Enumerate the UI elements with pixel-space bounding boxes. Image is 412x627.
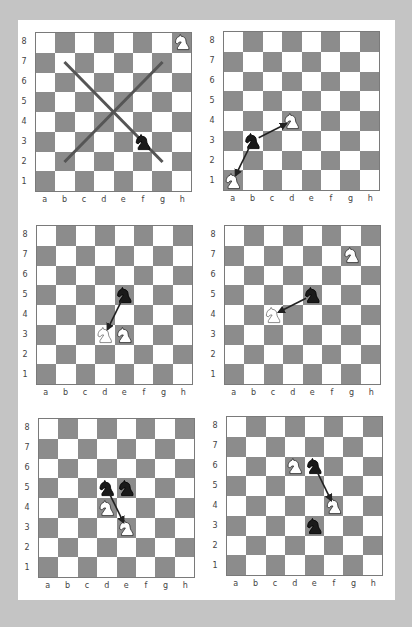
square-d6 bbox=[95, 266, 114, 286]
square-g6 bbox=[153, 266, 172, 286]
square-c7 bbox=[263, 52, 282, 72]
square-h4 bbox=[360, 111, 379, 131]
square-h2 bbox=[363, 536, 382, 556]
square-e7 bbox=[114, 53, 133, 73]
square-a3 bbox=[227, 516, 246, 536]
square-e3 bbox=[305, 516, 324, 536]
file-label: c bbox=[262, 194, 282, 203]
square-c4 bbox=[76, 305, 95, 325]
square-c5 bbox=[263, 91, 282, 111]
square-a7 bbox=[224, 52, 243, 72]
square-b6 bbox=[58, 459, 77, 479]
square-h7 bbox=[360, 52, 379, 72]
square-e1 bbox=[114, 171, 133, 191]
square-e1 bbox=[302, 170, 321, 190]
square-c8 bbox=[263, 32, 282, 52]
rank-label: 4 bbox=[207, 116, 217, 125]
square-d7 bbox=[282, 52, 301, 72]
square-f7 bbox=[136, 439, 155, 459]
file-label: c bbox=[74, 195, 94, 204]
square-g4 bbox=[340, 111, 359, 131]
file-label: c bbox=[77, 581, 97, 590]
square-f8 bbox=[321, 32, 340, 52]
square-c6 bbox=[266, 457, 285, 477]
square-h8 bbox=[360, 32, 379, 52]
square-a8 bbox=[36, 33, 55, 53]
file-label: e bbox=[114, 195, 134, 204]
square-c1 bbox=[264, 364, 283, 384]
square-c2 bbox=[263, 151, 282, 171]
file-label: b bbox=[243, 194, 263, 203]
square-f2 bbox=[321, 151, 340, 171]
rank-label: 7 bbox=[20, 250, 30, 259]
file-label: e bbox=[117, 581, 137, 590]
square-d4 bbox=[283, 305, 302, 325]
square-f6 bbox=[133, 73, 152, 93]
square-e3 bbox=[302, 131, 321, 151]
square-h2 bbox=[172, 152, 191, 172]
square-e5 bbox=[117, 478, 136, 498]
chess-diagram-4: 87654321abcdefgh bbox=[224, 225, 381, 385]
square-d4 bbox=[94, 112, 113, 132]
square-a8 bbox=[227, 417, 246, 437]
file-label: c bbox=[265, 579, 285, 588]
rank-label: 5 bbox=[20, 290, 30, 299]
square-a4 bbox=[224, 111, 243, 131]
square-d3 bbox=[285, 516, 304, 536]
square-a8 bbox=[224, 32, 243, 52]
square-f8 bbox=[324, 417, 343, 437]
file-label: a bbox=[35, 195, 55, 204]
square-e7 bbox=[117, 439, 136, 459]
square-a2 bbox=[224, 151, 243, 171]
square-e6 bbox=[115, 266, 134, 286]
square-g2 bbox=[152, 152, 171, 172]
square-c2 bbox=[78, 538, 97, 558]
square-e6 bbox=[305, 457, 324, 477]
file-label: d bbox=[95, 388, 115, 397]
square-g1 bbox=[340, 170, 359, 190]
square-b5 bbox=[55, 92, 74, 112]
square-b5 bbox=[243, 91, 262, 111]
rank-labels: 87654321 bbox=[207, 31, 217, 191]
rank-label: 4 bbox=[208, 310, 218, 319]
square-d1 bbox=[95, 364, 114, 384]
file-label: f bbox=[324, 579, 344, 588]
rank-label: 2 bbox=[208, 350, 218, 359]
square-h6 bbox=[361, 266, 380, 286]
square-e2 bbox=[117, 538, 136, 558]
square-b3 bbox=[55, 132, 74, 152]
square-f1 bbox=[134, 364, 153, 384]
rank-label: 1 bbox=[19, 177, 29, 186]
file-label: g bbox=[344, 579, 364, 588]
square-e8 bbox=[117, 419, 136, 439]
square-c3 bbox=[264, 325, 283, 345]
square-a5 bbox=[224, 91, 243, 111]
square-g7 bbox=[341, 246, 360, 266]
square-g6 bbox=[155, 459, 174, 479]
square-g8 bbox=[343, 417, 362, 437]
square-h6 bbox=[175, 459, 194, 479]
chess-diagram-2: 87654321abcdefgh bbox=[223, 31, 380, 191]
square-b4 bbox=[58, 498, 77, 518]
square-h4 bbox=[172, 112, 191, 132]
square-f8 bbox=[322, 226, 341, 246]
square-h2 bbox=[173, 345, 192, 365]
square-g8 bbox=[152, 33, 171, 53]
square-c4 bbox=[264, 305, 283, 325]
square-a2 bbox=[36, 152, 55, 172]
file-label: g bbox=[154, 388, 174, 397]
square-b5 bbox=[246, 476, 265, 496]
square-b3 bbox=[246, 516, 265, 536]
square-d3 bbox=[95, 325, 114, 345]
square-e2 bbox=[305, 536, 324, 556]
square-d1 bbox=[282, 170, 301, 190]
square-g2 bbox=[153, 345, 172, 365]
square-d5 bbox=[282, 91, 301, 111]
square-d2 bbox=[97, 538, 116, 558]
square-c5 bbox=[264, 285, 283, 305]
file-label: d bbox=[94, 195, 114, 204]
square-h4 bbox=[175, 498, 194, 518]
rank-label: 8 bbox=[19, 37, 29, 46]
chess-board bbox=[36, 225, 193, 385]
square-e6 bbox=[117, 459, 136, 479]
